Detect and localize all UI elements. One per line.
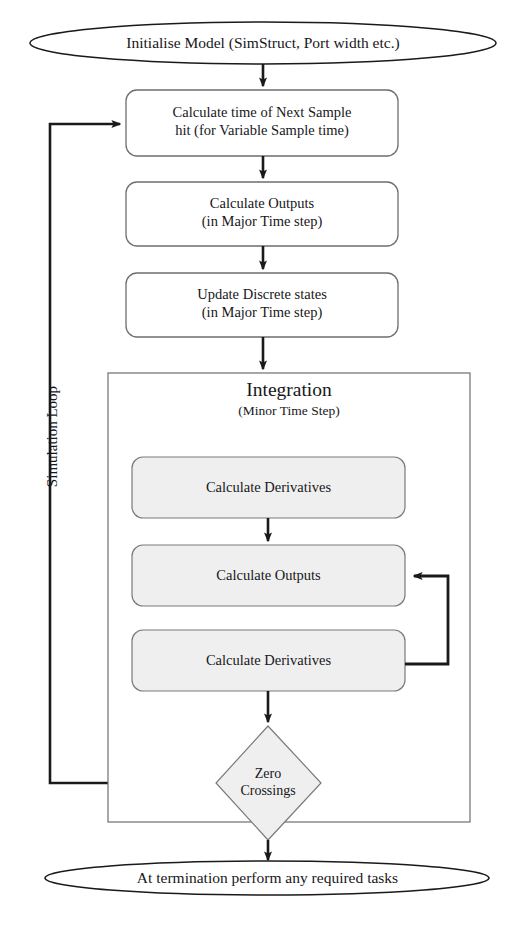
integration-step-1-shape bbox=[132, 457, 405, 518]
flowchart-graphics bbox=[0, 0, 523, 925]
start-terminal-shape bbox=[30, 22, 496, 64]
step-3-shape bbox=[126, 273, 398, 337]
integration-step-3-shape bbox=[132, 630, 405, 691]
flowchart-canvas: Initialise Model (SimStruct, Port width … bbox=[0, 0, 523, 925]
end-terminal-shape bbox=[45, 861, 489, 895]
step-2-shape bbox=[126, 182, 398, 246]
simulation-loop-label: Simulation Loop bbox=[44, 367, 61, 507]
step-1-shape bbox=[126, 90, 398, 156]
integration-step-2-shape bbox=[132, 545, 405, 606]
